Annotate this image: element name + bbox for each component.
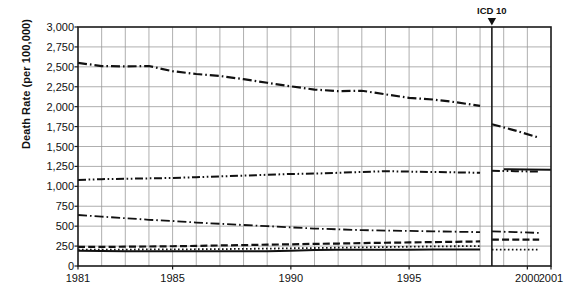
plot-area xyxy=(0,0,584,299)
series-3 xyxy=(504,169,551,170)
y-axis-tick: 750 xyxy=(30,201,74,211)
series-line-post-break xyxy=(492,171,539,172)
y-axis-tick: 1,250 xyxy=(30,161,74,171)
y-axis-tick: 3,000 xyxy=(30,22,74,32)
x-axis-tick: 1985 xyxy=(151,272,195,284)
x-axis-tick: 1990 xyxy=(269,272,313,284)
y-axis-tick: 1,500 xyxy=(30,142,74,152)
y-axis-tick: 250 xyxy=(30,241,74,251)
x-axis-tick: 1981 xyxy=(56,272,100,284)
x-axis-tick-labels: 198119851990199520002001 xyxy=(0,272,584,292)
x-axis-tick: 2001 xyxy=(529,272,573,284)
icd10-annotation-label: ICD 10 xyxy=(452,5,532,16)
icd10-marker-triangle xyxy=(488,18,496,26)
y-axis-tick: 1,750 xyxy=(30,122,74,132)
y-axis-tick: 2,750 xyxy=(30,42,74,52)
series-line xyxy=(504,169,551,170)
y-axis-tick: 500 xyxy=(30,221,74,231)
y-axis-tick: 1,000 xyxy=(30,181,74,191)
chart-container: Death Rate (per 100,000) 02505007501,000… xyxy=(0,0,584,299)
y-axis-tick: 2,000 xyxy=(30,102,74,112)
y-axis-tick: 2,500 xyxy=(30,62,74,72)
y-axis-tick: 0 xyxy=(30,261,74,271)
x-axis-tick: 1995 xyxy=(387,272,431,284)
y-axis-tick: 2,250 xyxy=(30,82,74,92)
y-axis-tick-labels: 02505007501,0001,2501,5001,7502,0002,250… xyxy=(28,0,74,299)
